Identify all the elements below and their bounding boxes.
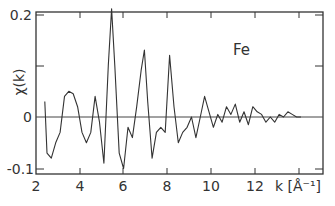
element-annotation: Fe: [233, 41, 250, 59]
y-tick-label: 0.2: [10, 7, 32, 23]
plot-frame: [36, 12, 323, 174]
y-tick-label: 0: [23, 109, 32, 125]
chi-k-curve: [45, 9, 301, 169]
x-tick-label: 8: [163, 178, 172, 194]
x-tick-label: 10: [202, 178, 220, 194]
y-axis-label: χ(k): [11, 68, 27, 95]
x-tick-label: 2: [32, 178, 41, 194]
x-axis-label: k [Å⁻¹]: [275, 178, 321, 194]
exafs-chart: 0.2 0 -0.1 χ(k) 2 4 6 8 10 12 k [Å⁻¹] Fe: [0, 0, 335, 206]
x-tick-label: 4: [76, 178, 85, 194]
x-tick-label: 6: [119, 178, 128, 194]
x-tick-label: 12: [246, 178, 264, 194]
y-tick-label: -0.1: [7, 161, 34, 177]
y-ticks: [36, 15, 323, 169]
